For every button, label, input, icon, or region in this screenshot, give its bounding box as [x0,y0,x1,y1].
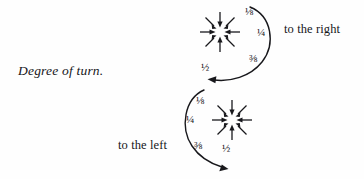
starburst-arrow-s [217,37,222,53]
starburst-arrow-se [224,35,235,46]
curved-arrow-clockwise [208,7,271,83]
starburst-arrow-w [212,117,228,122]
starburst-arrow-n [217,12,222,28]
starburst-arrow-se [236,123,247,134]
starburst-clockwise [200,12,240,52]
starburst-arrow-nw [218,106,229,117]
starburst-arrow-e [225,29,241,34]
starburst-counterclockwise [212,100,252,140]
starburst-arrow-sw [206,35,217,46]
starburst-arrow-n [229,100,234,116]
figure-line-art [0,0,364,179]
starburst-arrow-w [200,29,216,34]
starburst-arrow-s [229,125,234,141]
starburst-arrow-sw [218,123,229,134]
starburst-arrow-ne [236,106,247,117]
figure-canvas: Degree of turn. to the right to the left… [0,0,364,179]
starburst-arrow-ne [224,18,235,29]
starburst-arrow-e [237,117,253,122]
starburst-arrow-nw [206,18,217,29]
